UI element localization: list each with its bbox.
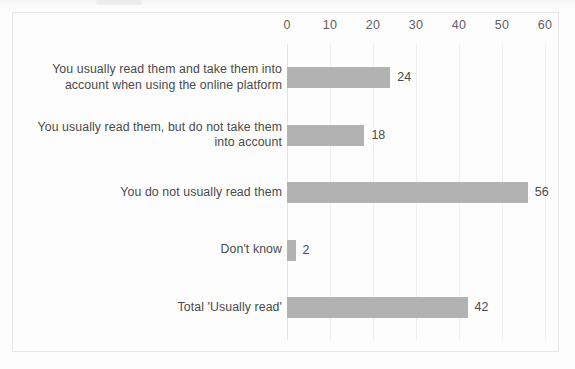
x-tick-label-0: 0 (283, 18, 290, 32)
x-tick-label-60: 60 (538, 18, 552, 32)
bar-value-label-2: 56 (535, 182, 549, 203)
bar-1[interactable] (287, 125, 364, 146)
chart-row: You usually read them, but do not take t… (0, 115, 575, 171)
category-label-0: You usually read them and take them into… (27, 62, 282, 93)
bar-3[interactable] (287, 240, 296, 261)
x-axis-tick-labels: 0102030405060 (287, 18, 545, 38)
bar-0[interactable] (287, 67, 390, 88)
category-label-1: You usually read them, but do not take t… (27, 120, 282, 151)
category-label-4: Total 'Usually read' (27, 300, 282, 316)
scan-artifact-top (0, 0, 575, 9)
x-tick-label-40: 40 (452, 18, 466, 32)
x-tick-label-10: 10 (323, 18, 337, 32)
x-tick-label-30: 30 (409, 18, 423, 32)
bar-value-label-0: 24 (397, 67, 411, 88)
bar-4[interactable] (287, 297, 468, 318)
scan-artifact-mark (96, 0, 142, 5)
chart-row: Total 'Usually read'42 (0, 287, 575, 343)
chart-row: You do not usually read them56 (0, 172, 575, 228)
x-tick-label-20: 20 (366, 18, 380, 32)
bar-value-label-1: 18 (371, 125, 385, 146)
chart-page: 0102030405060 You usually read them and … (0, 0, 575, 369)
category-label-2: You do not usually read them (27, 185, 282, 201)
bar-2[interactable] (287, 182, 528, 203)
bar-value-label-3: 2 (303, 240, 310, 261)
x-tick-label-50: 50 (495, 18, 509, 32)
category-label-3: Don't know (27, 242, 282, 258)
chart-row: Don't know2 (0, 230, 575, 286)
chart-row: You usually read them and take them into… (0, 57, 575, 113)
bar-value-label-4: 42 (475, 297, 489, 318)
